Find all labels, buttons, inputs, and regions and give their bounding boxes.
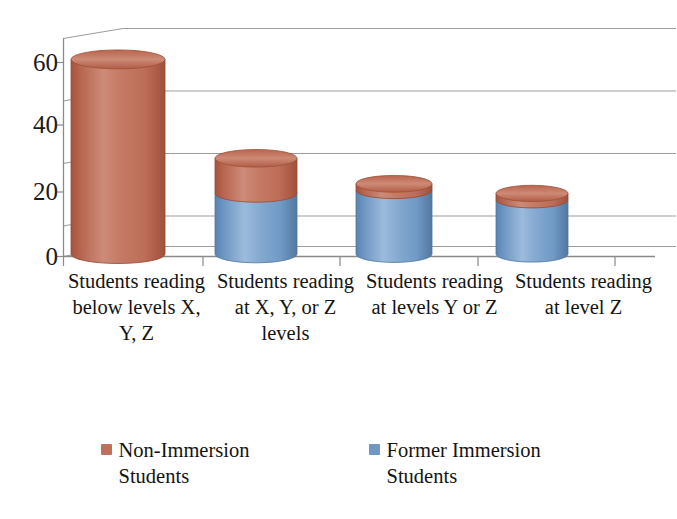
bar-1-top-cap <box>71 50 165 69</box>
legend-swatch-blue-icon <box>369 444 380 455</box>
category-label-4: Students reading at level Z <box>509 268 658 418</box>
y-tick-label-0: 0 <box>46 244 59 269</box>
bar-group-3 <box>356 175 432 262</box>
y-tick-label-60: 60 <box>33 50 58 75</box>
x-axis-category-labels: Students reading below levels X, Y, Z St… <box>62 268 658 418</box>
legend-label-former-immersion: Former Immersion Students <box>387 437 577 489</box>
chart-scene <box>0 0 677 300</box>
y-axis-ticks <box>57 63 64 257</box>
legend-item-former-immersion: Former Immersion Students <box>369 437 577 489</box>
y-tick-label-40: 40 <box>33 112 58 137</box>
y-tick-label-20: 20 <box>33 179 58 204</box>
bar-2-segment-blue <box>215 193 297 262</box>
category-label-1: Students reading below levels X, Y, Z <box>62 268 211 418</box>
bar-4-segment-blue <box>496 200 568 262</box>
bar-chart: 60 40 20 0 Students reading below levels… <box>0 0 677 519</box>
bar-group-4 <box>496 185 568 262</box>
plot-area: 60 40 20 0 <box>0 0 677 300</box>
bar-1-segment-red <box>71 59 165 263</box>
legend-swatch-red-icon <box>101 444 112 455</box>
category-label-3: Students reading at levels Y or Z <box>360 268 509 418</box>
chart-legend: Non-Immersion Students Former Immersion … <box>0 437 677 489</box>
bar-group-2 <box>215 150 297 263</box>
bar-2-top-cap <box>215 150 297 168</box>
bar-4-top-cap <box>496 185 568 201</box>
bar-group-1 <box>71 50 165 264</box>
legend-label-non-immersion: Non-Immersion Students <box>119 437 309 489</box>
bar-3-segment-blue <box>356 190 432 262</box>
bar-3-top-cap <box>356 175 432 192</box>
legend-item-non-immersion: Non-Immersion Students <box>101 437 309 489</box>
category-label-2: Students reading at X, Y, or Z levels <box>211 268 360 418</box>
